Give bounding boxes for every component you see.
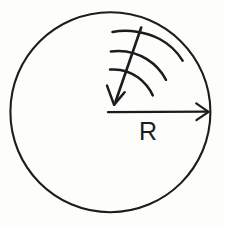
radius-arrow [108, 103, 209, 120]
figure-canvas: R [0, 0, 225, 228]
wavefront-outer [113, 31, 183, 61]
wavefront-inner [110, 69, 153, 95]
wavefront-middle [111, 51, 166, 80]
radius-label: R [139, 119, 157, 144]
incident-wave-arrow [107, 28, 141, 105]
diagram-svg [0, 0, 225, 228]
